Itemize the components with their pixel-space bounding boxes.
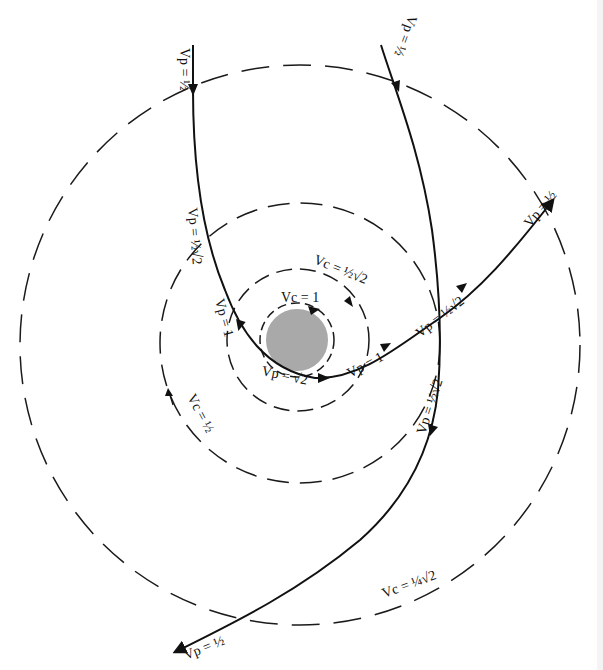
trajectory-parabolic bbox=[193, 45, 553, 378]
arrow-marker bbox=[456, 283, 467, 293]
label-vp-half-top-left: Vp = ½ bbox=[177, 48, 192, 91]
label-vc-quarter-sqrt2: Vc = ¼√2 bbox=[380, 567, 438, 600]
label-vp-half-sqrt2-left: Vp = ½√2 bbox=[185, 207, 205, 265]
label-vp-1-left: Vp = 1 bbox=[212, 297, 237, 339]
arrow-marker bbox=[234, 316, 248, 331]
label-vp-1-right: Vp = 1 bbox=[344, 349, 385, 381]
page-edge bbox=[597, 0, 603, 670]
label-vp-half-top-right: Vp = ½ bbox=[391, 13, 420, 58]
label-vp-half-right-arrow: Vp = ½ bbox=[521, 188, 560, 230]
arrow-marker bbox=[318, 373, 330, 383]
label-vp-half-sqrt2-lower-right: Vp = ½√2 bbox=[414, 377, 446, 436]
second-orbit-arrow bbox=[344, 296, 353, 307]
label-vc-1: Vc = 1 bbox=[281, 290, 319, 305]
orbit-velocity-diagram: Vp = ½ Vp = ½ Vp = ½√2 Vp = 1 Vp = √2 Vp… bbox=[0, 0, 603, 670]
label-vc-half-sqrt2: Vc = ½√2 bbox=[312, 252, 370, 287]
arrow-marker bbox=[380, 343, 391, 352]
